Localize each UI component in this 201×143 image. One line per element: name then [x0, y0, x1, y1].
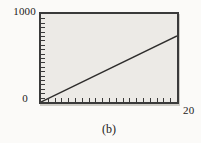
x-tick — [68, 98, 69, 102]
figure-caption: (b) — [39, 122, 179, 136]
y-tick — [41, 84, 45, 85]
x-tick — [157, 98, 158, 102]
x-tick — [136, 98, 137, 102]
y-tick — [41, 32, 45, 33]
x-tick — [109, 98, 110, 102]
y-tick — [41, 45, 45, 46]
data-line — [41, 36, 177, 102]
x-tick — [55, 98, 56, 102]
x-tick — [61, 98, 62, 102]
x-axis-max-label: 20 — [183, 105, 201, 116]
y-tick — [41, 62, 45, 63]
x-tick — [150, 98, 151, 102]
x-tick — [48, 98, 49, 102]
y-tick — [41, 54, 45, 55]
x-tick — [163, 98, 164, 102]
y-tick — [41, 76, 45, 77]
y-tick — [41, 18, 45, 19]
plot-area — [39, 12, 179, 104]
y-tick — [41, 27, 45, 28]
y-tick — [41, 71, 45, 72]
x-tick — [170, 98, 171, 102]
x-tick — [89, 98, 90, 102]
y-tick — [41, 89, 45, 90]
x-tick — [82, 98, 83, 102]
y-axis-origin-label: 0 — [12, 93, 28, 104]
x-tick — [143, 98, 144, 102]
y-tick — [41, 98, 45, 99]
x-tick — [129, 98, 130, 102]
y-tick — [41, 93, 45, 94]
figure: 1000 0 20 (b) — [0, 0, 201, 143]
line-series — [41, 14, 177, 102]
y-axis-max-label: 1000 — [4, 6, 36, 17]
x-tick — [123, 98, 124, 102]
y-tick — [41, 49, 45, 50]
y-tick — [41, 67, 45, 68]
y-tick — [41, 36, 45, 37]
y-tick — [41, 80, 45, 81]
y-tick — [41, 58, 45, 59]
y-tick — [41, 40, 45, 41]
y-tick — [41, 23, 45, 24]
x-tick — [116, 98, 117, 102]
x-tick — [95, 98, 96, 102]
x-tick — [75, 98, 76, 102]
x-tick — [102, 98, 103, 102]
